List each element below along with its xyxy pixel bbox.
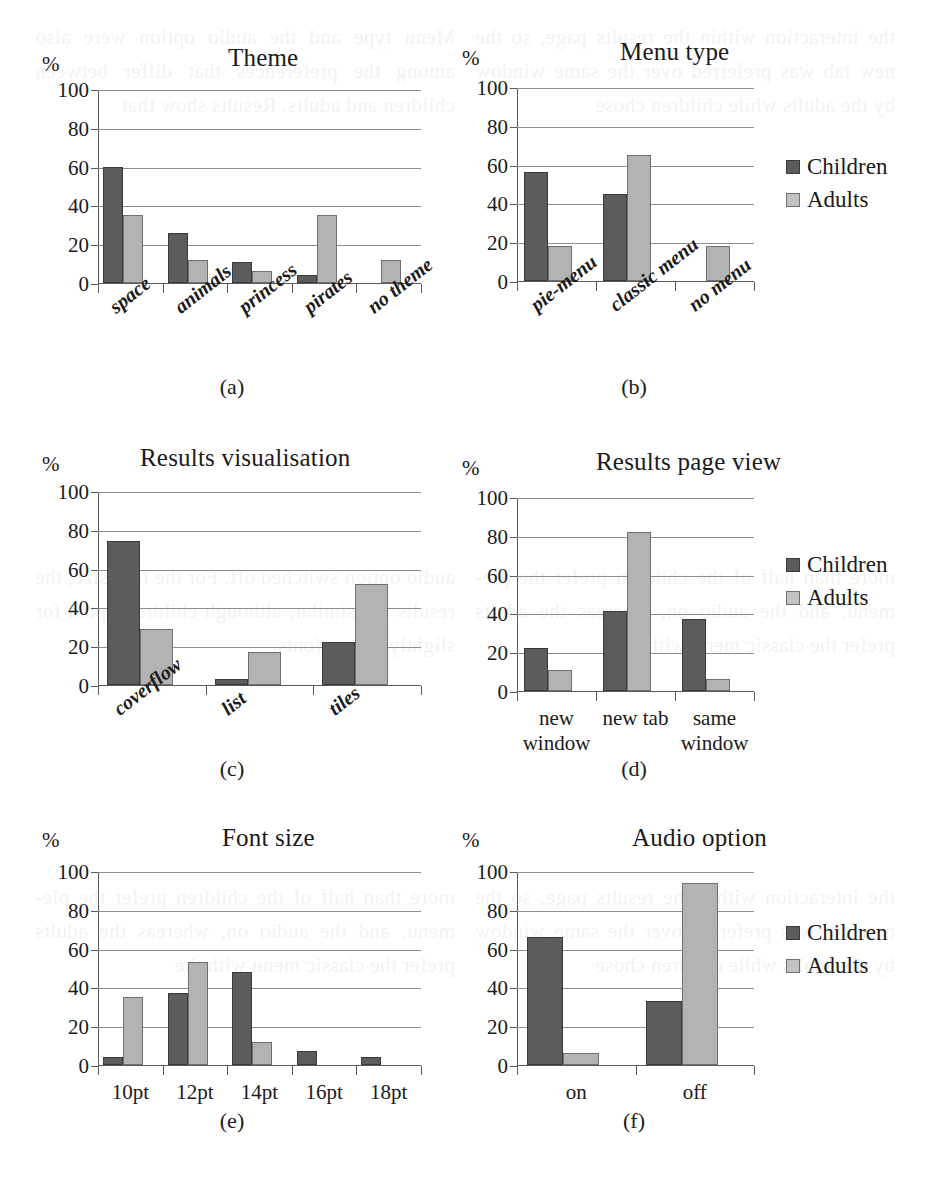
y-axis-tick: [510, 282, 517, 283]
y-axis-tick-label: 0: [498, 270, 509, 295]
gridline: [517, 88, 754, 89]
legend-swatch-adults-icon: [786, 591, 800, 605]
x-axis-tick: [313, 686, 314, 695]
bar-adults: [682, 883, 718, 1065]
y-axis-tick-label: 40: [68, 194, 89, 219]
y-axis-tick-label: 100: [58, 78, 90, 103]
y-axis-tick: [91, 911, 98, 912]
bar-children: [603, 611, 627, 691]
bar-adults: [627, 155, 651, 281]
y-axis-unit: %: [42, 52, 60, 77]
bar-children: [297, 1051, 317, 1065]
legend-item-adults: Adults: [786, 187, 888, 213]
plot-area: 020406080100onoff: [517, 872, 754, 1066]
y-axis-tick: [91, 570, 98, 571]
y-axis-tick-label: 80: [487, 524, 508, 549]
chart-legend: Children Adults: [786, 552, 888, 618]
x-axis-category-label: newwindow: [523, 706, 591, 756]
x-axis-tick: [98, 686, 99, 695]
plot-area: 02040608010010pt12pt14pt16pt18pt: [98, 872, 421, 1066]
x-axis-tick: [227, 284, 228, 293]
y-axis: [98, 90, 99, 284]
x-axis-tick: [356, 1066, 357, 1075]
plot-area: 020406080100newwindownew tabsamewindow: [517, 498, 754, 692]
chart-caption: (a): [220, 374, 244, 400]
gridline: [98, 1027, 421, 1028]
x-axis-tick: [754, 282, 755, 291]
y-axis-unit: %: [42, 828, 60, 853]
bar-children: [527, 937, 563, 1065]
x-axis-tick: [596, 282, 597, 291]
plot-area: 020406080100coverflowlisttiles: [98, 492, 421, 686]
gridline: [98, 90, 421, 91]
x-axis-category-label: on: [566, 1080, 587, 1105]
y-axis: [98, 872, 99, 1066]
x-axis-tick: [517, 692, 518, 701]
y-axis: [517, 498, 518, 692]
y-axis-tick-label: 40: [68, 596, 89, 621]
x-axis-tick: [675, 692, 676, 701]
y-axis-tick: [91, 647, 98, 648]
bar-adults: [252, 1042, 272, 1065]
bar-children: [232, 262, 252, 283]
y-axis-tick: [510, 127, 517, 128]
x-axis-tick: [636, 1066, 637, 1075]
plot-area: 020406080100spaceanimalsprincesspiratesn…: [98, 90, 421, 284]
y-axis: [98, 492, 99, 686]
y-axis-tick-label: 20: [487, 641, 508, 666]
y-axis-tick-label: 80: [68, 116, 89, 141]
bar-children: [107, 541, 140, 685]
y-axis: [517, 88, 518, 282]
y-axis-tick: [510, 204, 517, 205]
y-axis-tick-label: 0: [79, 674, 90, 699]
bar-adults: [248, 652, 281, 685]
x-axis-tick: [421, 1066, 422, 1075]
y-axis-tick: [510, 498, 517, 499]
y-axis-tick-label: 60: [487, 937, 508, 962]
y-axis-tick-label: 100: [477, 486, 509, 511]
y-axis-unit: %: [462, 828, 480, 853]
y-axis-tick-label: 20: [68, 635, 89, 660]
bar-children: [232, 972, 252, 1065]
x-axis-tick: [421, 686, 422, 695]
x-axis-category-label: new tab: [603, 706, 669, 731]
gridline: [98, 168, 421, 169]
bar-children: [361, 1057, 381, 1065]
chart-caption: (d): [621, 756, 647, 782]
x-axis-tick: [206, 686, 207, 695]
x-axis-category-label: tiles: [324, 681, 364, 720]
gridline: [517, 127, 754, 128]
bar-children: [646, 1001, 682, 1065]
bar-adults: [355, 584, 388, 685]
chart-legend: Children Adults: [786, 154, 888, 220]
y-axis-tick-label: 100: [477, 76, 509, 101]
legend-label-adults: Adults: [807, 585, 868, 611]
y-axis-tick-label: 0: [79, 1054, 90, 1079]
bar-children: [103, 167, 123, 283]
x-axis-tick: [517, 282, 518, 291]
y-axis-tick: [91, 492, 98, 493]
y-axis-tick-label: 60: [68, 937, 89, 962]
chart-title: Audio option: [632, 824, 767, 852]
y-axis-tick: [510, 166, 517, 167]
y-axis-tick: [91, 872, 98, 873]
y-axis-tick-label: 80: [68, 518, 89, 543]
y-axis-unit: %: [462, 46, 480, 71]
bar-children: [168, 233, 188, 283]
legend-label-children: Children: [807, 154, 888, 180]
x-axis-tick: [163, 1066, 164, 1075]
x-axis-tick: [754, 1066, 755, 1075]
legend-item-adults: Adults: [786, 953, 888, 979]
y-axis-tick: [510, 872, 517, 873]
x-axis-tick: [292, 284, 293, 293]
y-axis-tick: [91, 531, 98, 532]
gridline: [98, 872, 421, 873]
gridline: [517, 498, 754, 499]
bar-children: [215, 679, 248, 685]
y-axis-tick-label: 60: [68, 155, 89, 180]
y-axis-tick-label: 20: [487, 1015, 508, 1040]
y-axis-tick-label: 100: [477, 860, 509, 885]
bar-children: [322, 642, 355, 685]
legend-swatch-adults-icon: [786, 959, 800, 973]
y-axis-tick: [510, 537, 517, 538]
